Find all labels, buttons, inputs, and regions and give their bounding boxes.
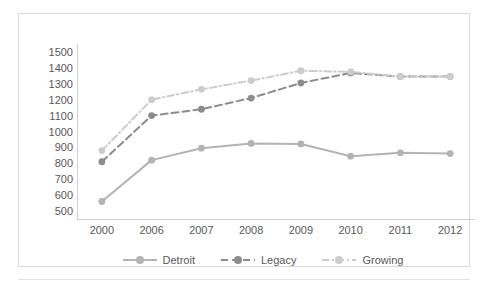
data-point-legacy-2000 (98, 158, 105, 165)
data-point-legacy-2007 (198, 106, 205, 113)
y-tick-1400: 1400 (33, 63, 73, 74)
chart-frame: 150014001300120011001000900800700600500 … (18, 13, 470, 267)
y-tick-600: 600 (33, 190, 73, 201)
data-point-growing-2008 (248, 77, 255, 84)
legend-swatch-legacy (221, 255, 255, 265)
data-point-growing-2000 (98, 147, 105, 154)
legend-label: Growing (362, 253, 403, 267)
x-tick-2008: 2008 (239, 223, 263, 237)
chart-screenshot: 150014001300120011001000900800700600500 … (0, 0, 487, 288)
legend-label: Legacy (261, 253, 296, 267)
data-point-growing-2007 (198, 86, 205, 93)
x-tick-2007: 2007 (189, 223, 213, 237)
x-axis-tick-labels: 20002006200720082009201020112012 (77, 223, 475, 243)
x-tick-2006: 2006 (139, 223, 163, 237)
x-tick-2012: 2012 (438, 223, 462, 237)
data-point-detroit-2011 (397, 149, 404, 156)
line-series-group (77, 44, 475, 219)
y-tick-500: 500 (33, 206, 73, 217)
data-point-detroit-2007 (198, 145, 205, 152)
legend-marker-icon (234, 256, 242, 264)
legend-item-growing[interactable]: Growing (322, 253, 403, 267)
x-axis-line (77, 219, 475, 220)
data-point-growing-2012 (447, 73, 454, 80)
y-tick-1300: 1300 (33, 79, 73, 90)
series-detroit (98, 140, 453, 205)
y-tick-700: 700 (33, 174, 73, 185)
data-point-detroit-2009 (297, 141, 304, 148)
data-point-detroit-2006 (148, 157, 155, 164)
y-tick-900: 900 (33, 142, 73, 153)
data-point-legacy-2008 (248, 95, 255, 102)
data-point-detroit-2010 (347, 153, 354, 160)
x-tick-2009: 2009 (289, 223, 313, 237)
legend-marker-icon (136, 256, 144, 264)
data-point-detroit-2000 (98, 198, 105, 205)
legend-item-detroit[interactable]: Detroit (123, 253, 195, 267)
data-point-legacy-2009 (297, 80, 304, 87)
legend-swatch-growing (322, 255, 356, 265)
legend-swatch-detroit (123, 255, 157, 265)
data-point-growing-2006 (148, 96, 155, 103)
series-growing (98, 67, 453, 154)
page-divider-rule (18, 279, 470, 280)
data-point-detroit-2008 (248, 140, 255, 147)
series-line-growing (102, 71, 450, 151)
data-point-growing-2009 (297, 67, 304, 74)
x-tick-2000: 2000 (90, 223, 114, 237)
legend-label: Detroit (163, 253, 195, 267)
x-tick-2010: 2010 (338, 223, 362, 237)
chart-legend: DetroitLegacyGrowing (37, 250, 487, 270)
data-point-legacy-2006 (148, 112, 155, 119)
x-tick-2011: 2011 (389, 223, 413, 237)
y-tick-1500: 1500 (33, 47, 73, 58)
y-tick-800: 800 (33, 158, 73, 169)
data-point-detroit-2012 (447, 150, 454, 157)
legend-marker-icon (335, 256, 343, 264)
data-point-growing-2010 (347, 68, 354, 75)
data-point-growing-2011 (397, 73, 404, 80)
y-axis-tick-labels: 150014001300120011001000900800700600500 (33, 44, 73, 219)
plot-area (77, 44, 475, 219)
y-tick-1200: 1200 (33, 95, 73, 106)
y-tick-1100: 1100 (33, 111, 73, 122)
y-tick-1000: 1000 (33, 127, 73, 138)
legend-item-legacy[interactable]: Legacy (221, 253, 296, 267)
